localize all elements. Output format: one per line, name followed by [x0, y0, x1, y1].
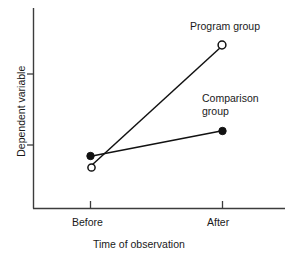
comparison-group-after-point [219, 127, 226, 134]
chart-container: Program group Comparisongroup Before Aft… [0, 0, 295, 260]
program-group-after-point [218, 41, 226, 49]
x-axis-title: Time of observation [93, 238, 185, 251]
series-label-comparison-group: Comparisongroup [202, 92, 259, 117]
program-group-before-point [88, 164, 95, 171]
y-axis-title: Dependent variable [15, 51, 28, 171]
x-axis-tick-label-after: After [207, 216, 229, 229]
series-label-comparison-group-line1: Comparison [202, 92, 259, 104]
series-line-comparison-group [92, 131, 221, 156]
series-label-program-group: Program group [190, 20, 260, 33]
chart-plot-area [0, 0, 295, 260]
x-axis-tick-label-before: Before [72, 216, 103, 229]
comparison-group-before-point [87, 152, 94, 159]
series-label-comparison-group-line2: group [202, 105, 229, 117]
